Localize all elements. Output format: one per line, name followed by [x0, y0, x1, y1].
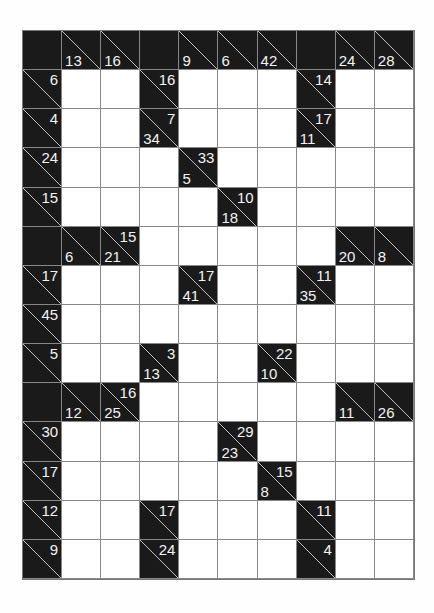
- entry-cell[interactable]: [179, 422, 218, 461]
- entry-cell[interactable]: [218, 148, 257, 187]
- entry-cell[interactable]: [375, 501, 414, 540]
- entry-cell[interactable]: [218, 305, 257, 344]
- entry-cell[interactable]: [336, 70, 375, 109]
- entry-cell[interactable]: [101, 344, 140, 383]
- entry-cell[interactable]: [101, 148, 140, 187]
- entry-cell[interactable]: [258, 501, 297, 540]
- entry-cell[interactable]: [179, 540, 218, 579]
- entry-cell[interactable]: [179, 305, 218, 344]
- clue-cell: 11: [297, 501, 336, 540]
- entry-cell[interactable]: [336, 109, 375, 148]
- entry-cell[interactable]: [140, 422, 179, 461]
- entry-cell[interactable]: [375, 188, 414, 227]
- across-clue-sum: 9: [50, 541, 58, 558]
- entry-cell[interactable]: [258, 305, 297, 344]
- entry-cell[interactable]: [336, 540, 375, 579]
- across-clue-sum: 4: [323, 541, 331, 558]
- entry-cell[interactable]: [375, 109, 414, 148]
- entry-cell[interactable]: [336, 148, 375, 187]
- entry-cell[interactable]: [101, 188, 140, 227]
- entry-cell[interactable]: [101, 266, 140, 305]
- entry-cell[interactable]: [140, 188, 179, 227]
- down-clue-sum: 18: [221, 209, 238, 226]
- entry-cell[interactable]: [297, 344, 336, 383]
- entry-cell[interactable]: [297, 148, 336, 187]
- entry-cell[interactable]: [179, 462, 218, 501]
- entry-cell[interactable]: [62, 266, 101, 305]
- entry-cell[interactable]: [101, 540, 140, 579]
- entry-cell[interactable]: [297, 305, 336, 344]
- entry-cell[interactable]: [297, 188, 336, 227]
- entry-cell[interactable]: [179, 70, 218, 109]
- entry-cell[interactable]: [258, 148, 297, 187]
- entry-cell[interactable]: [375, 148, 414, 187]
- entry-cell[interactable]: [179, 109, 218, 148]
- entry-cell[interactable]: [297, 422, 336, 461]
- entry-cell[interactable]: [101, 305, 140, 344]
- entry-cell[interactable]: [258, 266, 297, 305]
- entry-cell[interactable]: [336, 462, 375, 501]
- entry-cell[interactable]: [375, 70, 414, 109]
- entry-cell[interactable]: [101, 109, 140, 148]
- entry-cell[interactable]: [258, 70, 297, 109]
- entry-cell[interactable]: [218, 266, 257, 305]
- entry-cell[interactable]: [218, 383, 257, 422]
- entry-cell[interactable]: [101, 70, 140, 109]
- entry-cell[interactable]: [179, 383, 218, 422]
- entry-cell[interactable]: [101, 501, 140, 540]
- entry-cell[interactable]: [218, 462, 257, 501]
- entry-cell[interactable]: [140, 148, 179, 187]
- entry-cell[interactable]: [375, 266, 414, 305]
- clue-cell: 11: [336, 383, 375, 422]
- entry-cell[interactable]: [297, 227, 336, 266]
- entry-cell[interactable]: [297, 462, 336, 501]
- entry-cell[interactable]: [375, 540, 414, 579]
- entry-cell[interactable]: [62, 109, 101, 148]
- across-clue-sum: 33: [198, 149, 215, 166]
- entry-cell[interactable]: [375, 305, 414, 344]
- entry-cell[interactable]: [101, 462, 140, 501]
- entry-cell[interactable]: [258, 188, 297, 227]
- entry-cell[interactable]: [218, 227, 257, 266]
- entry-cell[interactable]: [140, 227, 179, 266]
- entry-cell[interactable]: [62, 422, 101, 461]
- entry-cell[interactable]: [336, 422, 375, 461]
- block-cell: [23, 383, 62, 422]
- entry-cell[interactable]: [140, 383, 179, 422]
- entry-cell[interactable]: [297, 383, 336, 422]
- entry-cell[interactable]: [62, 148, 101, 187]
- entry-cell[interactable]: [140, 305, 179, 344]
- entry-cell[interactable]: [375, 344, 414, 383]
- entry-cell[interactable]: [62, 462, 101, 501]
- entry-cell[interactable]: [375, 422, 414, 461]
- entry-cell[interactable]: [140, 462, 179, 501]
- entry-cell[interactable]: [336, 188, 375, 227]
- entry-cell[interactable]: [218, 344, 257, 383]
- entry-cell[interactable]: [375, 462, 414, 501]
- entry-cell[interactable]: [62, 305, 101, 344]
- entry-cell[interactable]: [258, 227, 297, 266]
- entry-cell[interactable]: [179, 227, 218, 266]
- entry-cell[interactable]: [336, 305, 375, 344]
- entry-cell[interactable]: [258, 383, 297, 422]
- entry-cell[interactable]: [258, 422, 297, 461]
- entry-cell[interactable]: [179, 344, 218, 383]
- entry-cell[interactable]: [179, 188, 218, 227]
- entry-cell[interactable]: [101, 422, 140, 461]
- entry-cell[interactable]: [336, 344, 375, 383]
- entry-cell[interactable]: [218, 109, 257, 148]
- entry-cell[interactable]: [258, 540, 297, 579]
- entry-cell[interactable]: [336, 266, 375, 305]
- entry-cell[interactable]: [218, 501, 257, 540]
- entry-cell[interactable]: [258, 109, 297, 148]
- entry-cell[interactable]: [62, 188, 101, 227]
- entry-cell[interactable]: [62, 344, 101, 383]
- entry-cell[interactable]: [140, 266, 179, 305]
- entry-cell[interactable]: [179, 501, 218, 540]
- entry-cell[interactable]: [62, 540, 101, 579]
- entry-cell[interactable]: [62, 501, 101, 540]
- entry-cell[interactable]: [218, 540, 257, 579]
- entry-cell[interactable]: [218, 70, 257, 109]
- entry-cell[interactable]: [336, 501, 375, 540]
- entry-cell[interactable]: [62, 70, 101, 109]
